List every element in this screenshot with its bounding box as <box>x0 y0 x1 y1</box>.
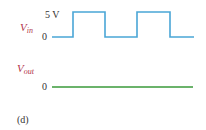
vin-square-wave <box>52 12 194 37</box>
vout-zero-label: 0 <box>42 82 47 92</box>
vin-high-label: 5 V <box>45 10 60 20</box>
vout-symbol: V <box>17 62 24 74</box>
vout-label: Vout <box>17 63 34 76</box>
figure-caption: (d) <box>17 115 29 125</box>
vin-subscript: in <box>27 26 33 35</box>
vin-label: Vin <box>20 22 33 35</box>
vout-subscript: out <box>24 67 34 76</box>
vin-zero-label: 0 <box>42 32 47 42</box>
vin-symbol: V <box>20 21 27 33</box>
